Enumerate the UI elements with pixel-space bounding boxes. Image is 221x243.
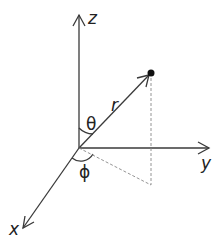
y-axis-label: y: [200, 153, 212, 173]
x-axis: [23, 148, 79, 228]
radius-label: r: [111, 95, 119, 115]
z-axis-label: z: [87, 8, 98, 28]
phi-arc: [72, 154, 93, 161]
phi-label: ϕ: [79, 162, 90, 182]
theta-label: θ: [86, 114, 96, 134]
point-marker: [148, 70, 155, 77]
spherical-coordinates-diagram: z y x r θ ϕ: [0, 0, 221, 243]
x-axis-label: x: [8, 219, 20, 239]
